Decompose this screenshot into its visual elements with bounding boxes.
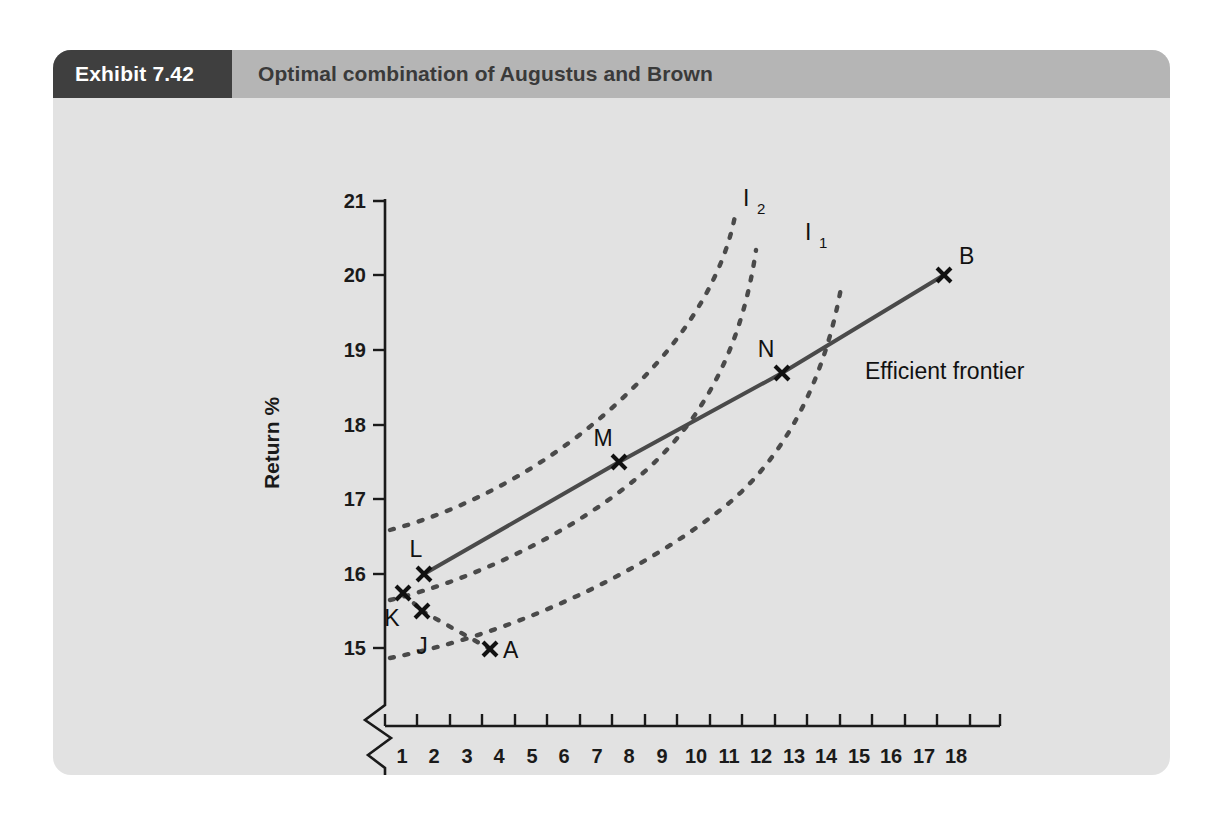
efficient-frontier-annotation: Efficient frontier xyxy=(865,358,1025,384)
data-point-l[interactable]: L xyxy=(410,536,431,581)
indifference-curve-i3-label: I xyxy=(743,185,749,211)
x-tick-label-14: 14 xyxy=(815,745,838,767)
y-axis-title: Return % xyxy=(260,397,283,490)
exhibit-header-bar: Exhibit 7.42 Optimal combination of Augu… xyxy=(53,50,1170,98)
data-point-n[interactable]: N xyxy=(758,336,789,380)
y-tick-label-17: 17 xyxy=(344,488,366,510)
y-tick-label-19: 19 xyxy=(344,339,366,361)
x-tick-label-3: 3 xyxy=(461,745,472,767)
data-point-b[interactable]: B xyxy=(937,243,974,282)
x-tick-label-9: 9 xyxy=(656,745,667,767)
exhibit-title: Optimal combination of Augustus and Brow… xyxy=(232,50,713,98)
x-tick-label-18: 18 xyxy=(945,745,967,767)
data-point-k-label: K xyxy=(384,605,400,631)
indifference-curve-i2-subscript: 1 xyxy=(819,234,827,251)
indifference-curve-i3-path xyxy=(390,216,735,530)
y-tick-label-20: 20 xyxy=(344,264,366,286)
chart-plot-area: 21 20 19 18 17 16 15 Return % xyxy=(53,98,1170,775)
data-point-a[interactable]: A xyxy=(483,637,519,663)
data-point-n-label: N xyxy=(758,336,775,362)
x-tick-label-15: 15 xyxy=(848,745,870,767)
exhibit-number-badge: Exhibit 7.42 xyxy=(53,50,232,98)
data-point-m-label: M xyxy=(593,425,612,451)
data-point-m[interactable]: M xyxy=(593,425,626,469)
x-tick-label-6: 6 xyxy=(558,745,569,767)
x-tick-label-12: 12 xyxy=(750,745,772,767)
data-point-l-label: L xyxy=(410,536,423,562)
x-tick-label-4: 4 xyxy=(493,745,505,767)
y-axis-break-zigzag xyxy=(365,695,391,775)
efficient-frontier-line xyxy=(424,275,944,574)
data-point-a-label: A xyxy=(503,637,519,663)
indifference-curve-i3-subscript: 2 xyxy=(757,200,765,217)
data-point-b-label: B xyxy=(959,243,974,269)
indifference-curve-i3: I 2 xyxy=(390,185,765,530)
y-tick-label-21: 21 xyxy=(344,190,366,212)
x-tick-label-7: 7 xyxy=(591,745,602,767)
connector-j-to-a xyxy=(422,611,490,649)
x-axis: 1 2 3 4 5 6 7 8 9 10 11 12 13 14 15 16 1… xyxy=(385,714,1000,775)
efficient-frontier: Efficient frontier xyxy=(424,275,1025,574)
indifference-curve-i2-label: I xyxy=(805,219,811,245)
x-tick-label-16: 16 xyxy=(880,745,902,767)
x-tick-label-8: 8 xyxy=(623,745,634,767)
y-axis: 21 20 19 18 17 16 15 Return % xyxy=(260,190,391,775)
y-tick-label-16: 16 xyxy=(344,563,366,585)
x-tick-label-2: 2 xyxy=(428,745,439,767)
data-point-k[interactable]: K xyxy=(384,586,410,631)
indifference-curve-i2: I 1 xyxy=(390,219,827,600)
x-tick-label-13: 13 xyxy=(783,745,805,767)
x-tick-label-17: 17 xyxy=(913,745,935,767)
x-tick-label-5: 5 xyxy=(526,745,537,767)
exhibit-card: Exhibit 7.42 Optimal combination of Augu… xyxy=(53,50,1170,775)
x-tick-label-10: 10 xyxy=(685,745,707,767)
y-tick-label-15: 15 xyxy=(344,637,366,659)
x-tick-label-11: 11 xyxy=(718,745,739,767)
data-point-j-label: J xyxy=(416,633,428,659)
x-tick-label-1: 1 xyxy=(396,745,407,767)
scatter-chart: 21 20 19 18 17 16 15 Return % xyxy=(53,98,1170,775)
y-tick-label-18: 18 xyxy=(344,414,366,436)
data-points: K J L A xyxy=(384,243,974,663)
